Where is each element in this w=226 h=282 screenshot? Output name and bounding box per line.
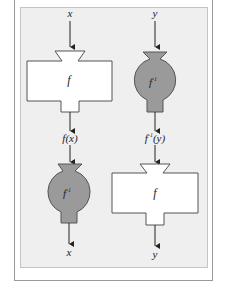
middle-label-fx: f(x) (62, 132, 78, 145)
inverse-machine-f-inv: f-1 (134, 52, 175, 112)
right-column: y f-1 f-1(y) f y (112, 7, 198, 260)
function-machine-f: f (112, 164, 198, 225)
inverse-machine-f-inv: f-1 (48, 164, 90, 223)
middle-label-f-inv-y: f-1(y) (145, 132, 166, 145)
input-label-y: y (152, 7, 158, 19)
function-machine-f: f (27, 51, 112, 112)
function-inverse-diagram: x f f(x) f-1 x y f-1 f-1(y) (0, 0, 226, 282)
output-label-y: y (152, 248, 158, 260)
input-label-x: x (67, 7, 73, 19)
left-column: x f f(x) f-1 x (27, 7, 112, 258)
output-label-x: x (66, 246, 72, 258)
